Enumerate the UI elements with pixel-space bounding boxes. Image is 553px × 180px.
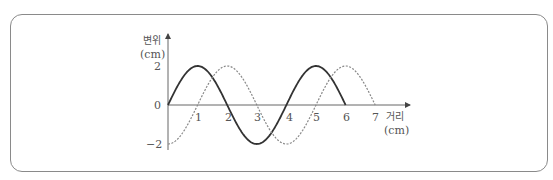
x-tick-2: 2 <box>225 111 232 124</box>
x-tick-7: 7 <box>372 111 379 124</box>
x-tick-5: 5 <box>313 111 320 124</box>
x-tick-4: 4 <box>286 111 293 124</box>
x-tick-3: 3 <box>254 111 261 124</box>
x-tick-6: 6 <box>343 111 350 124</box>
y-tick-2: 2 <box>154 60 161 73</box>
y-axis-unit: (cm) <box>140 48 165 61</box>
y-axis-title: 변위 <box>143 34 161 46</box>
x-tick-1: 1 <box>195 111 202 124</box>
y-tick-0: 0 <box>154 99 161 112</box>
wave-chart: 변위 (cm) 2 0 −2 1 2 3 4 5 6 7 거리 (cm) <box>0 0 553 180</box>
y-tick-neg2: −2 <box>146 138 162 151</box>
x-axis-title: 거리 <box>386 111 404 122</box>
x-axis-unit: (cm) <box>384 124 409 137</box>
